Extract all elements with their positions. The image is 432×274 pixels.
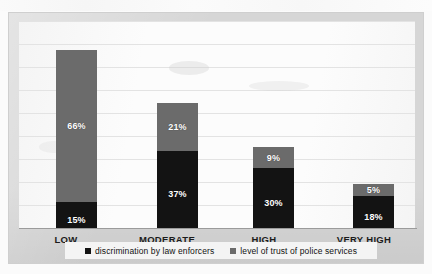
plot-area: 66% 15% 21% 37% 9%	[19, 21, 415, 229]
bar-very-high[interactable]: 5% 18%	[353, 184, 394, 229]
bar-very-high-discrimination-value: 18%	[364, 212, 383, 222]
bar-low-trust-value: 66%	[67, 121, 86, 131]
bar-very-high-discrimination-segment[interactable]: 18%	[353, 196, 394, 229]
bar-high-discrimination-value: 30%	[264, 198, 283, 208]
bar-moderate-discrimination-segment[interactable]: 37%	[157, 151, 198, 229]
bar-high[interactable]: 9% 30%	[253, 147, 294, 229]
bar-moderate-discrimination-value: 37%	[168, 189, 187, 199]
bar-low[interactable]: 66% 15%	[56, 50, 97, 229]
bar-high-discrimination-segment[interactable]: 30%	[253, 168, 294, 229]
bar-low-discrimination-value: 15%	[67, 215, 86, 225]
legend-label-trust: level of trust of police services	[240, 246, 357, 256]
square-marker-black-icon	[85, 248, 91, 254]
bar-very-high-trust-segment[interactable]: 5%	[353, 184, 394, 196]
bar-series-group: 66% 15% 21% 37% 9%	[29, 29, 415, 229]
bar-moderate-trust-segment[interactable]: 21%	[157, 103, 198, 151]
chart-frame: 66% 15% 21% 37% 9%	[8, 12, 424, 264]
chart-legend: discrimination by law enforcers level of…	[65, 242, 377, 259]
scan-margin	[0, 0, 432, 11]
square-marker-grey-icon	[230, 248, 236, 254]
legend-item-trust[interactable]: level of trust of police services	[230, 246, 357, 256]
bar-high-trust-segment[interactable]: 9%	[253, 147, 294, 168]
bar-moderate-trust-value: 21%	[168, 122, 187, 132]
bar-low-trust-segment[interactable]: 66%	[56, 50, 97, 202]
bar-moderate[interactable]: 21% 37%	[157, 103, 198, 229]
chart-screenshot: 66% 15% 21% 37% 9%	[0, 0, 432, 274]
bar-very-high-trust-value: 5%	[367, 185, 380, 195]
bar-high-trust-value: 9%	[267, 153, 280, 163]
bar-low-discrimination-segment[interactable]: 15%	[56, 202, 97, 229]
legend-label-discrimination: discrimination by law enforcers	[95, 246, 214, 256]
category-axis-line	[19, 228, 417, 229]
legend-item-discrimination[interactable]: discrimination by law enforcers	[85, 246, 214, 256]
